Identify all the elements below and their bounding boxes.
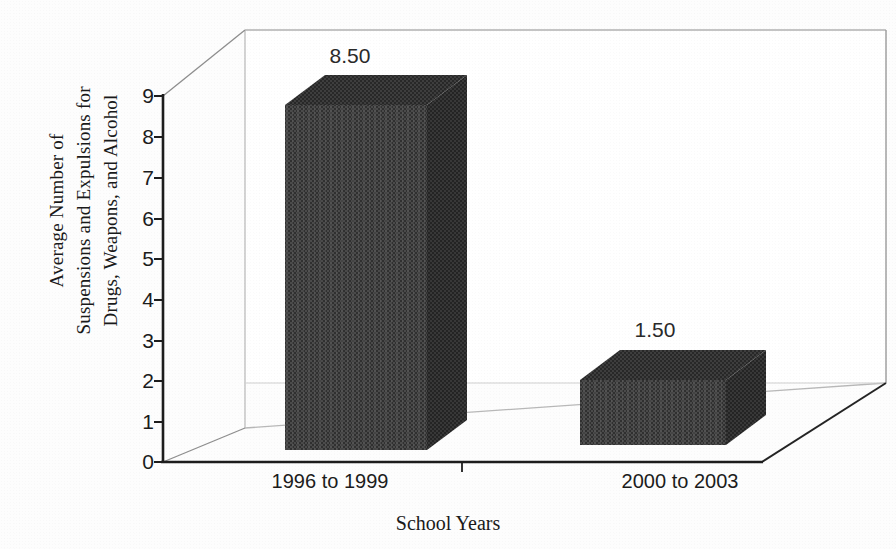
y-tick-label: 1 — [128, 411, 154, 432]
x-tick-label-1996-to-1999: 1996 to 1999 — [210, 470, 450, 493]
bar-value-label: 8.50 — [290, 44, 410, 68]
bar-2000-to-2003[interactable] — [580, 350, 766, 450]
y-tick-label: 4 — [128, 289, 154, 310]
x-tick-label-2000-to-2003: 2000 to 2003 — [560, 470, 800, 493]
y-tick-label: 8 — [128, 126, 154, 147]
bar-value-label: 1.50 — [595, 318, 715, 342]
y-tick-label: 5 — [128, 248, 154, 269]
y-tick-label: 0 — [128, 451, 154, 472]
bar-chart-figure: 9 8 7 6 5 4 3 2 1 0 Average Number of Su… — [0, 0, 896, 549]
y-tick-label: 7 — [128, 167, 154, 188]
y-axis-title-line: Suspensions and Expulsions for — [71, 0, 98, 425]
y-axis-title-line: Drugs, Weapons, and Alcohol — [97, 0, 124, 425]
y-tick-label: 9 — [128, 85, 154, 106]
y-tick-label: 3 — [128, 330, 154, 351]
y-axis-title: Average Number of Suspensions and Expuls… — [44, 0, 125, 425]
bar-1996-to-1999[interactable] — [285, 75, 467, 450]
x-axis-title: School Years — [278, 512, 618, 535]
y-tick-label: 2 — [128, 370, 154, 391]
depth-edge-top-left — [163, 30, 245, 96]
depth-edge-bottom-left — [163, 428, 245, 462]
y-axis-ticks — [154, 96, 163, 462]
y-axis-title-line: Average Number of — [44, 0, 71, 425]
depth-edge-bottom-right — [762, 383, 886, 462]
y-tick-label: 6 — [128, 208, 154, 229]
